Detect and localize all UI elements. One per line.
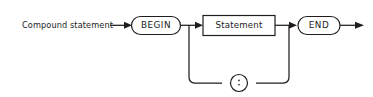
statement-entry-arrowhead-icon [195,22,203,29]
entry-arrowhead-icon [124,22,132,29]
exit-arrowhead-icon [355,22,364,29]
railroad-diagram: Compound statement BEGIN Statement END [0,0,373,97]
statement-node-label: Statement [215,20,262,30]
railroad-diagram-canvas: Compound statement BEGIN Statement END [0,0,373,97]
entry-label: Compound statement [22,20,114,30]
begin-node-label: BEGIN [141,20,171,30]
end-entry-arrowhead-icon [289,22,297,29]
end-node-label: END [309,20,329,30]
